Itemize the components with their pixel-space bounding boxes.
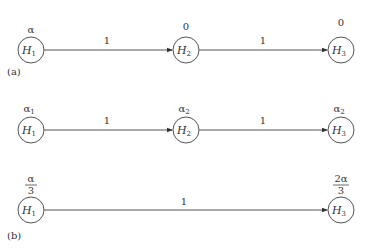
node-label: H — [331, 124, 342, 137]
node-label: H — [21, 124, 32, 137]
node-h3: α2 H3 — [328, 103, 354, 143]
panel-label-b: (b) — [7, 230, 21, 241]
svg-text:α1: α1 — [23, 103, 34, 116]
node-value-subscript: 2 — [340, 108, 344, 116]
node-h1: α H1 — [18, 24, 44, 63]
node-subscript: 3 — [342, 130, 346, 138]
node-h3: 0 H3 — [328, 17, 354, 63]
node-subscript: 1 — [32, 130, 36, 138]
node-h2: 0 H2 — [173, 21, 199, 63]
node-h2: α2 H2 — [173, 103, 199, 143]
edge-weight: 1 — [260, 115, 266, 126]
node-value-denominator: 3 — [28, 185, 34, 196]
node-value: α — [28, 24, 35, 35]
node-value-numerator: α — [28, 173, 35, 184]
panel-b-row-1: 1 1 α1 H1 α2 H2 α2 H3 — [18, 103, 354, 143]
node-label: H — [21, 204, 32, 217]
hypothesis-graph-diagram: 1 1 α H1 0 H2 0 H3 (a) 1 1 α1 — [0, 0, 375, 250]
edge-weight: 1 — [181, 196, 187, 207]
node-value-subscript: 1 — [30, 108, 34, 116]
node-h1: α 3 H1 — [18, 173, 44, 223]
node-value: 0 — [338, 17, 344, 28]
node-label: H — [176, 124, 187, 137]
node-label: H — [21, 44, 32, 57]
svg-text:α2: α2 — [333, 103, 344, 116]
node-value-subscript: 2 — [185, 108, 189, 116]
svg-text:α2: α2 — [178, 103, 189, 116]
node-label: H — [176, 44, 187, 57]
node-subscript: 2 — [187, 50, 191, 58]
node-value-denominator: 3 — [338, 185, 344, 196]
edge-weight: 1 — [104, 35, 110, 46]
edge-weight: 1 — [104, 115, 110, 126]
node-label: H — [331, 44, 342, 57]
panel-a: 1 1 α H1 0 H2 0 H3 (a) — [7, 17, 354, 77]
node-subscript: 1 — [32, 210, 36, 218]
node-subscript: 3 — [342, 210, 346, 218]
edge-weight: 1 — [260, 35, 266, 46]
node-label: H — [331, 204, 342, 217]
node-subscript: 1 — [32, 50, 36, 58]
panel-b-row-2: 1 α 3 H1 2α 3 H3 (b) — [7, 173, 354, 241]
node-subscript: 3 — [342, 50, 346, 58]
node-h3: 2α 3 H3 — [328, 173, 354, 223]
panel-label-a: (a) — [7, 66, 21, 77]
node-subscript: 2 — [187, 130, 191, 138]
node-h1: α1 H1 — [18, 103, 44, 143]
node-value-numerator: 2α — [334, 173, 347, 184]
node-value: 0 — [183, 21, 189, 32]
